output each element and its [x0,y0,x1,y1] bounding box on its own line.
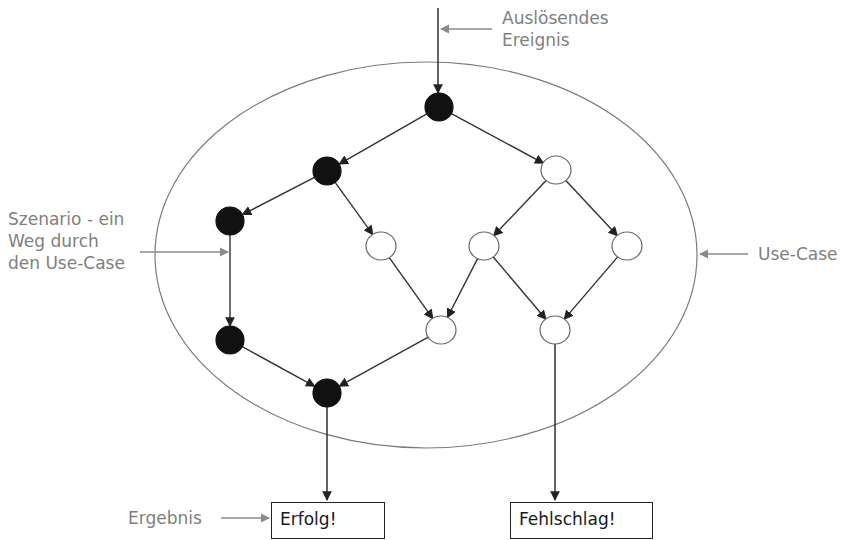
scenario-step-node-taken [216,326,244,354]
result-label: Ergebnis [128,507,202,529]
scenario-edge [450,113,543,163]
scenario-step-node-taken [313,379,341,407]
scenario-edge [242,177,315,215]
scenario-step-node-taken [216,207,244,235]
trigger-label-line1: Auslösendes [502,7,609,29]
scenario-step-node-taken [425,93,453,121]
success-outcome-box: Erfolg! [271,502,385,539]
usecase-label: Use-Case [758,243,838,265]
scenario-step-node-taken [313,157,341,185]
scenario-step-node [426,316,456,344]
result-label-text: Ergebnis [128,508,202,528]
scenario-step-node [366,232,396,260]
failure-outcome-box: Fehlschlag! [510,502,653,539]
trigger-label-line2: Ereignis [502,29,609,51]
scenario-edge [339,113,428,164]
scenario-edges [230,113,619,386]
usecase-label-text: Use-Case [758,244,838,264]
scenario-step-node [612,232,642,260]
scenario-label-line3: den Use-Case [8,252,125,274]
failure-outcome-text: Fehlschlag! [519,509,616,529]
scenario-edge [565,179,618,235]
trigger-label: Auslösendes Ereignis [502,7,609,51]
scenario-edge [241,346,314,386]
scenario-label-line1: Szenario - ein [8,208,125,230]
scenario-label-line2: Weg durch [8,230,125,252]
scenario-edge [494,179,547,235]
scenario-step-node [541,156,571,184]
scenario-edge [339,336,429,386]
scenario-edge [447,258,478,318]
success-outcome-text: Erfolg! [280,509,336,529]
scenario-nodes [216,93,642,407]
scenario-edge [389,257,433,319]
scenario-edge [335,182,373,235]
scenario-label: Szenario - ein Weg durch den Use-Case [8,208,125,274]
use-case-scenario-diagram [0,0,851,540]
scenario-step-node [469,232,499,260]
scenario-edge [564,256,618,320]
scenario-edge [492,256,546,319]
scenario-step-node [540,316,570,344]
